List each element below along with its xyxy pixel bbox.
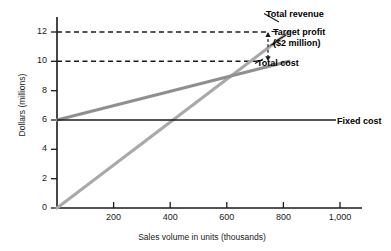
chart-container: 12 10 8 6 4 2 0 200 400 600 800 1,000 Do… — [0, 0, 391, 251]
y-tick-label-12: 12 — [25, 26, 47, 36]
y-tick-label-10: 10 — [25, 55, 47, 65]
y-axis-title: Dollars (millions) — [17, 60, 27, 150]
x-tick-label-200: 200 — [94, 212, 134, 222]
y-tick-label-2: 2 — [25, 173, 47, 183]
x-tick-label-1000: 1,000 — [320, 212, 360, 222]
x-tick-label-800: 800 — [263, 212, 303, 222]
x-axis-title: Sales volume in units (thousands) — [92, 232, 312, 242]
target-profit-label-line2: ($2 million) — [273, 38, 325, 49]
y-tick-label-4: 4 — [25, 143, 47, 153]
y-tick-label-8: 8 — [25, 85, 47, 95]
total-cost-line — [57, 61, 289, 120]
target-profit-label: Target profit ($2 million) — [273, 27, 325, 49]
x-tick-label-400: 400 — [150, 212, 190, 222]
x-tick-marks — [114, 202, 340, 208]
fixed-cost-label: Fixed cost — [337, 116, 382, 127]
y-tick-label-0: 0 — [25, 202, 47, 212]
total-cost-label: Total cost — [257, 58, 299, 69]
x-tick-label-600: 600 — [207, 212, 247, 222]
total-revenue-label: Total revenue — [266, 9, 324, 20]
y-tick-label-6: 6 — [25, 114, 47, 124]
target-profit-label-line1: Target profit — [273, 27, 325, 37]
